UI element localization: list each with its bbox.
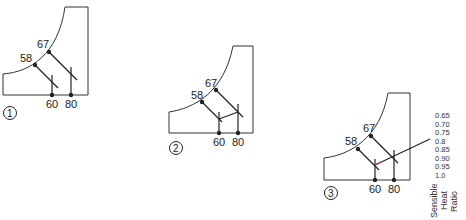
psychrometric-diagram-2: 67 58 60 80 2 bbox=[169, 46, 253, 155]
point-67 bbox=[369, 134, 373, 138]
label-67: 67 bbox=[37, 38, 49, 50]
wet-bulb-line-58 bbox=[35, 65, 58, 88]
wet-bulb-line-58 bbox=[358, 149, 379, 170]
shr-value: 1.0 bbox=[435, 171, 445, 180]
shr-label-heat: Heat bbox=[439, 190, 449, 210]
process-line bbox=[219, 112, 238, 119]
label-67: 67 bbox=[205, 77, 217, 89]
point-67 bbox=[47, 50, 51, 54]
label-60: 60 bbox=[369, 183, 381, 195]
label-58: 58 bbox=[345, 135, 357, 147]
shr-label-ratio: Ratio bbox=[449, 191, 459, 212]
point-60 bbox=[373, 178, 377, 182]
label-67: 67 bbox=[363, 122, 375, 134]
point-80 bbox=[69, 93, 73, 97]
point-58 bbox=[33, 63, 37, 67]
label-60: 60 bbox=[213, 136, 225, 148]
shr-label-sensible: Sensible bbox=[429, 183, 439, 218]
label-80: 80 bbox=[388, 183, 400, 195]
point-80 bbox=[392, 178, 396, 182]
shr-line bbox=[375, 139, 430, 165]
sensible-heat-ratio-scale: 0.65 0.70 0.75 0.8 0.85 0.90 0.95 1.0 Se… bbox=[429, 111, 459, 218]
chart-outline bbox=[169, 46, 253, 133]
diagram-number: 1 bbox=[7, 108, 13, 119]
point-60 bbox=[217, 131, 221, 135]
wet-bulb-line-67 bbox=[49, 52, 77, 80]
point-58 bbox=[356, 147, 360, 151]
label-80: 80 bbox=[232, 136, 244, 148]
diagram-number: 3 bbox=[328, 188, 334, 199]
shr-line-accent bbox=[375, 162, 381, 165]
label-60: 60 bbox=[46, 98, 58, 110]
label-58: 58 bbox=[20, 52, 32, 64]
psychrometric-diagram-3: 67 58 60 80 3 bbox=[324, 93, 430, 200]
label-80: 80 bbox=[65, 98, 77, 110]
chart-outline bbox=[324, 93, 410, 180]
label-58: 58 bbox=[191, 89, 203, 101]
psychrometric-diagram-1: 67 58 60 80 1 bbox=[3, 7, 88, 120]
point-80 bbox=[236, 131, 240, 135]
chart-outline bbox=[3, 7, 88, 95]
diagram-number: 2 bbox=[173, 143, 179, 154]
wet-bulb-line-67 bbox=[216, 90, 243, 117]
point-60 bbox=[50, 93, 54, 97]
